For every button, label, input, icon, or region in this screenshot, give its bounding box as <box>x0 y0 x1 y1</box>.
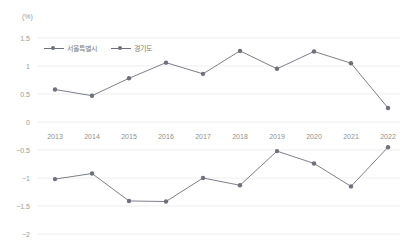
x-axis-tick-label: 2022 <box>380 133 396 140</box>
data-point-marker[interactable] <box>275 149 279 153</box>
data-point-marker[interactable] <box>386 106 390 110</box>
data-point-marker[interactable] <box>53 87 57 91</box>
data-point-marker[interactable] <box>201 72 205 76</box>
x-axis-tick-label: 2016 <box>158 133 174 140</box>
y-axis-tick-labels: 1.510.50−0.5−1−1.5−2 <box>16 35 30 238</box>
data-point-marker[interactable] <box>238 49 242 53</box>
line-chart: (%) 1.510.50−0.5−1−1.5−2 201320142015201… <box>0 0 411 247</box>
x-axis-tick-label: 2019 <box>269 133 285 140</box>
x-axis-tick-label: 2015 <box>121 133 137 140</box>
x-axis-tick-label: 2013 <box>47 133 63 140</box>
series-line-gyeonggi <box>55 147 388 201</box>
data-point-marker[interactable] <box>127 76 131 80</box>
data-point-marker[interactable] <box>312 161 316 165</box>
y-axis-tick-label: 1.5 <box>20 35 30 42</box>
legend-label-seoul: 서울특별시 <box>67 43 97 53</box>
x-axis-tick-label: 2014 <box>84 133 100 140</box>
data-point-marker[interactable] <box>201 176 205 180</box>
y-axis-tick-label: −0.5 <box>16 147 30 154</box>
data-point-marker[interactable] <box>90 171 94 175</box>
data-point-marker[interactable] <box>349 184 353 188</box>
data-point-marker[interactable] <box>164 199 168 203</box>
x-axis-tick-label: 2020 <box>306 133 322 140</box>
data-point-marker[interactable] <box>53 177 57 181</box>
x-axis-tick-label: 2021 <box>343 133 359 140</box>
y-axis-tick-label: −1.5 <box>16 203 30 210</box>
data-point-marker[interactable] <box>127 199 131 203</box>
x-axis-tick-label: 2017 <box>195 133 211 140</box>
chart-legend: 서울특별시 경기도 <box>44 43 152 53</box>
data-point-marker[interactable] <box>312 49 316 53</box>
data-point-marker[interactable] <box>349 61 353 65</box>
y-axis-tick-label: 0 <box>26 119 30 126</box>
y-axis-tick-label: −1 <box>22 175 30 182</box>
x-axis-tick-label: 2018 <box>232 133 248 140</box>
data-point-marker[interactable] <box>90 93 94 97</box>
legend-item-seoul[interactable]: 서울특별시 <box>44 43 97 53</box>
legend-line-marker-icon <box>44 45 64 52</box>
x-axis-tick-labels: 2013201420152016201720182019202020212022 <box>47 133 396 140</box>
data-point-marker[interactable] <box>164 60 168 64</box>
chart-plot-area: 1.510.50−0.5−1−1.5−2 2013201420152016201… <box>0 0 411 247</box>
series-line-seoul <box>55 51 388 108</box>
y-axis-tick-label: 0.5 <box>20 91 30 98</box>
data-series-group <box>53 49 390 204</box>
data-point-marker[interactable] <box>386 145 390 149</box>
legend-line-marker-icon <box>111 45 131 52</box>
legend-item-gyeonggi[interactable]: 경기도 <box>111 43 152 53</box>
data-point-marker[interactable] <box>238 183 242 187</box>
y-axis-tick-label: −2 <box>22 231 30 238</box>
legend-label-gyeonggi: 경기도 <box>134 43 152 53</box>
data-point-marker[interactable] <box>275 67 279 71</box>
y-axis-tick-label: 1 <box>26 63 30 70</box>
